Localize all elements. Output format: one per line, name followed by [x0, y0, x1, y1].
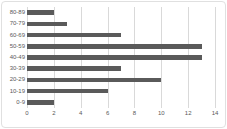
bar-row	[27, 97, 215, 108]
x-axis-label: 8	[133, 110, 136, 116]
bar	[27, 44, 202, 49]
y-axis-label: 40-49	[2, 52, 25, 63]
y-axis-label: 20-29	[2, 74, 25, 85]
bar	[27, 10, 54, 15]
bar	[27, 100, 54, 105]
y-axis-label: 70-79	[2, 18, 25, 29]
x-axis-label: 2	[52, 110, 55, 116]
gridline	[215, 7, 216, 108]
bar-row	[27, 7, 215, 18]
bar-row	[27, 63, 215, 74]
y-axis-label: 60-69	[2, 30, 25, 41]
x-axis-label: 6	[106, 110, 109, 116]
y-axis-label: 0-9	[2, 97, 25, 108]
bar-row	[27, 52, 215, 63]
x-axis-label: 4	[79, 110, 82, 116]
bar	[27, 22, 67, 27]
bar-row	[27, 74, 215, 85]
x-axis-label: 0	[25, 110, 28, 116]
bar-row	[27, 30, 215, 41]
x-axis-label: 10	[158, 110, 165, 116]
bar	[27, 78, 161, 83]
bar-row	[27, 18, 215, 29]
plot-area	[27, 7, 215, 108]
y-axis-label: 10-19	[2, 86, 25, 97]
bar-row	[27, 41, 215, 52]
x-axis-label: 12	[185, 110, 192, 116]
bar	[27, 33, 121, 38]
y-axis-label: 30-39	[2, 63, 25, 74]
bar	[27, 55, 202, 60]
y-axis-label: 80-89	[2, 7, 25, 18]
x-axis-label: 14	[212, 110, 219, 116]
bar-rows	[27, 7, 215, 108]
bar-row	[27, 86, 215, 97]
x-axis: 02468101214	[27, 110, 215, 120]
bar	[27, 66, 121, 71]
y-axis-labels: 80-8970-7960-6950-5940-4930-3920-2910-19…	[2, 7, 25, 108]
y-axis-label: 50-59	[2, 41, 25, 52]
bar	[27, 89, 108, 94]
